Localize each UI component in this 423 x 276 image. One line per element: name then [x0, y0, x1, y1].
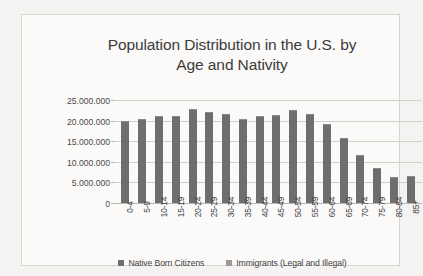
bar-group[interactable]: [234, 100, 251, 203]
bar-group[interactable]: [251, 100, 268, 203]
x-axis-tick: 25-29: [201, 205, 218, 245]
bar-group[interactable]: [268, 100, 285, 203]
bar-native-born-citizens[interactable]: [239, 119, 247, 203]
x-axis-tick: 35-39: [234, 205, 251, 245]
bar-group[interactable]: [201, 100, 218, 203]
bar-native-born-citizens[interactable]: [155, 116, 163, 203]
bar-group[interactable]: [167, 100, 184, 203]
bar-native-born-citizens[interactable]: [222, 114, 230, 203]
bar-group[interactable]: [184, 100, 201, 203]
chart-title: Population Distribution in the U.S. by A…: [52, 35, 412, 75]
bar-group[interactable]: [302, 100, 319, 203]
x-axis-tick: 20-24: [184, 205, 201, 245]
bar-native-born-citizens[interactable]: [272, 115, 280, 203]
y-axis-tick-label: 0: [44, 199, 110, 209]
x-axis-tick: 85+: [402, 205, 419, 245]
y-axis-tick-label: 25.000.000: [44, 96, 110, 106]
bar-native-born-citizens[interactable]: [256, 116, 264, 203]
chart-legend: Native Born CitizensImmigrants (Legal an…: [43, 258, 422, 268]
bar-native-born-citizens[interactable]: [340, 138, 348, 203]
bar-native-born-citizens[interactable]: [205, 112, 213, 203]
x-axis-tick: 55-59: [302, 205, 319, 245]
bar-group[interactable]: [318, 100, 335, 203]
legend-swatch-icon: [226, 260, 232, 266]
x-axis-tick: 40-44: [251, 205, 268, 245]
bar-group[interactable]: [369, 100, 386, 203]
y-axis-tick-label: 5.000.000: [44, 178, 110, 188]
bar-group[interactable]: [335, 100, 352, 203]
x-axis-tick: 60-64: [318, 205, 335, 245]
bar-series-group: [114, 100, 422, 203]
y-axis-tick-label: 20.000.000: [44, 117, 110, 127]
bar-group[interactable]: [117, 100, 134, 203]
bar-native-born-citizens[interactable]: [172, 116, 180, 203]
y-axis-tick-label: 15.000.000: [44, 137, 110, 147]
x-axis-tick: 0-4: [117, 205, 134, 245]
x-axis-tick: 10-14: [151, 205, 168, 245]
bar-group[interactable]: [386, 100, 403, 203]
y-axis-tick-label: 10.000.000: [44, 158, 110, 168]
legend-label: Native Born Citizens: [128, 258, 204, 268]
x-axis-tick: 30-34: [218, 205, 235, 245]
bar-native-born-citizens[interactable]: [121, 121, 129, 203]
legend-item[interactable]: Immigrants (Legal and Illegal): [226, 258, 346, 268]
legend-item[interactable]: Native Born Citizens: [118, 258, 204, 268]
chart-title-line-2: Age and Nativity: [52, 55, 412, 75]
bar-group[interactable]: [134, 100, 151, 203]
x-axis-tick: 45-49: [268, 205, 285, 245]
bar-group[interactable]: [218, 100, 235, 203]
x-axis-tick: 15-19: [167, 205, 184, 245]
bar-group[interactable]: [352, 100, 369, 203]
chart-frame: Population Distribution in the U.S. by A…: [21, 14, 400, 266]
bar-group[interactable]: [151, 100, 168, 203]
x-axis-tick: 70-74: [352, 205, 369, 245]
bar-group[interactable]: [402, 100, 419, 203]
bar-native-born-citizens[interactable]: [289, 110, 297, 203]
x-axis-tick-label: 85+: [411, 200, 421, 214]
bar-native-born-citizens[interactable]: [189, 109, 197, 203]
x-axis-tick: 50-54: [285, 205, 302, 245]
chart-screenshot: Population Distribution in the U.S. by A…: [0, 0, 423, 276]
x-axis-tick: 5-9: [134, 205, 151, 245]
x-axis-tick: 65-69: [335, 205, 352, 245]
bar-native-born-citizens[interactable]: [323, 124, 331, 203]
legend-label: Immigrants (Legal and Illegal): [236, 258, 346, 268]
bar-group[interactable]: [285, 100, 302, 203]
bar-native-born-citizens[interactable]: [306, 114, 314, 203]
x-axis-tick: 75-79: [369, 205, 386, 245]
legend-swatch-icon: [118, 260, 124, 266]
x-axis: 0-45-910-1415-1920-2425-2930-3435-3940-4…: [114, 205, 422, 245]
bar-native-born-citizens[interactable]: [138, 119, 146, 203]
x-axis-tick: 80-84: [386, 205, 403, 245]
chart-title-line-1: Population Distribution in the U.S. by: [52, 35, 412, 55]
plot-area: [114, 100, 422, 203]
